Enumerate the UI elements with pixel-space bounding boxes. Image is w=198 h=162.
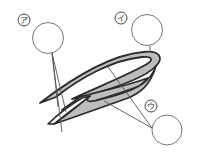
leader-a-1 <box>52 53 66 112</box>
label-i-text: イ <box>117 14 125 23</box>
label-u: ウ <box>145 100 157 112</box>
specimen-shape <box>40 52 160 124</box>
answer-circle-u[interactable] <box>152 115 182 145</box>
answer-circle-a[interactable] <box>33 23 64 54</box>
label-i: イ <box>115 12 127 24</box>
answer-circle-i[interactable] <box>132 15 163 46</box>
diagram-canvas: ア イ ウ <box>0 0 198 162</box>
label-a: ア <box>18 14 30 26</box>
label-a-text: ア <box>20 16 28 25</box>
label-u-text: ウ <box>147 102 155 111</box>
